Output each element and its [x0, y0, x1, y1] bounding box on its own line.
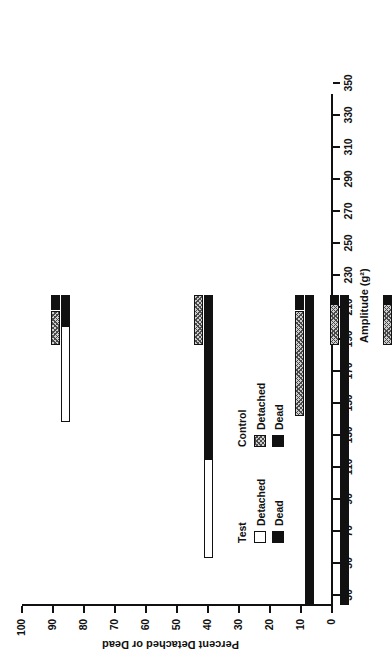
x-axis-title: Amplitude (g²): [358, 268, 370, 343]
amplitude-tick-label: 310: [342, 130, 354, 164]
bar-segment-control-dead: [383, 295, 392, 304]
percent-tick: [238, 606, 240, 613]
y-axis-title: Percent Detached or Dead: [102, 639, 239, 651]
percent-tick-label: 0: [325, 619, 337, 649]
amplitude-tick: [333, 210, 340, 212]
bar-segment-control-detached: [383, 304, 392, 344]
legend-swatch-hatched: [254, 435, 266, 447]
legend-entry-label: Dead: [273, 404, 285, 430]
figure-page: 0102030405060708090100 30507090110130150…: [0, 0, 392, 663]
percent-tick: [207, 606, 209, 613]
percent-tick: [300, 606, 302, 613]
legend-group-title: Control: [236, 410, 248, 447]
percent-tick-label: 10: [294, 619, 306, 649]
legend-entry-label: Dead: [273, 500, 285, 526]
amplitude-tick-label: 350: [342, 66, 354, 100]
rotated-figure-wrapper: 0102030405060708090100 30507090110130150…: [0, 0, 392, 663]
legend-entry-label: Detached: [255, 479, 267, 526]
amplitude-tick-label: 330: [342, 98, 354, 132]
plot-area: [22, 43, 332, 605]
percent-tick-label: 20: [263, 619, 275, 649]
percent-tick-label: 100: [15, 619, 27, 649]
percent-tick: [21, 606, 23, 613]
amplitude-tick-label: 270: [342, 194, 354, 228]
amplitude-tick: [333, 82, 340, 84]
amplitude-tick: [333, 178, 340, 180]
bar-segment-test-dead: [340, 295, 349, 605]
legend-group-title: Test: [236, 522, 248, 543]
legend-swatch-black: [272, 531, 284, 543]
bar-group: [22, 43, 332, 605]
amplitude-tick: [333, 274, 340, 276]
percent-tick: [114, 606, 116, 613]
percent-tick-label: 90: [46, 619, 58, 649]
legend-swatch-white: [254, 531, 266, 543]
percent-tick-label: 80: [77, 619, 89, 649]
amplitude-tick-label: 230: [342, 258, 354, 292]
amplitude-tick-label: 250: [342, 226, 354, 260]
percent-tick: [176, 606, 178, 613]
percent-tick: [331, 606, 333, 613]
amplitude-tick: [333, 146, 340, 148]
legend-entry-label: Detached: [255, 383, 267, 430]
amplitude-tick: [333, 114, 340, 116]
percent-tick: [83, 606, 85, 613]
bar-chart-figure: 0102030405060708090100 30507090110130150…: [0, 0, 392, 663]
percent-tick: [145, 606, 147, 613]
percent-tick: [52, 606, 54, 613]
amplitude-tick-label: 290: [342, 162, 354, 196]
legend-swatch-black: [272, 435, 284, 447]
amplitude-tick: [333, 242, 340, 244]
percent-tick: [269, 606, 271, 613]
